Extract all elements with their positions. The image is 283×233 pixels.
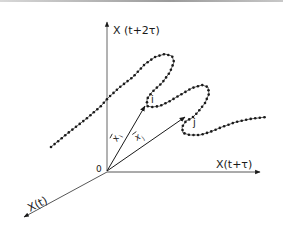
trajectory-point — [133, 74, 136, 77]
trajectory-point — [259, 117, 262, 120]
trajectory-point — [53, 143, 56, 146]
trajectory-point — [188, 118, 191, 121]
trajectory-point — [204, 102, 207, 105]
trajectory-point — [57, 140, 60, 143]
trajectory-points — [50, 53, 266, 148]
trajectory-point — [100, 105, 103, 108]
trajectory-point — [210, 130, 213, 133]
trajectory-point — [140, 67, 143, 70]
trajectory-point — [89, 114, 92, 117]
trajectory-point — [249, 118, 252, 121]
trajectory-point — [50, 146, 53, 149]
trajectory-point — [188, 133, 191, 136]
trajectory-path — [51, 54, 266, 147]
trajectory-point — [206, 132, 209, 135]
trajectory-point — [207, 89, 210, 92]
trajectory-point — [109, 95, 112, 98]
trajectory-point — [150, 58, 153, 61]
trajectory-point — [151, 106, 154, 109]
trajectory-point — [168, 72, 171, 75]
axes — [24, 22, 260, 217]
trajectory-point — [75, 126, 78, 129]
trajectory-point — [165, 76, 168, 79]
trajectory-point — [214, 128, 217, 131]
trajectory-point — [152, 89, 155, 92]
vector-xi-symbol: x — [109, 133, 121, 144]
trajectory-point — [126, 80, 129, 83]
trajectory — [50, 53, 266, 148]
trajectory-point — [82, 120, 85, 123]
trajectory-point — [227, 123, 230, 126]
trajectory-point — [201, 84, 204, 87]
trajectory-point — [205, 85, 208, 88]
trajectory-point — [172, 60, 175, 63]
trajectory-point — [183, 132, 186, 135]
trajectory-point — [112, 92, 115, 95]
trajectory-point — [167, 54, 170, 57]
trajectory-point — [181, 129, 184, 132]
trajectory-point — [119, 85, 122, 88]
phase-space-diagram: X (t+2τ) X(t+τ) X(t) 0 i j x i x j — [0, 0, 283, 233]
trajectory-point — [162, 80, 165, 83]
trajectory-point — [197, 134, 200, 137]
trajectory-point — [168, 100, 171, 103]
trajectory-point — [171, 64, 174, 67]
trajectory-point — [184, 91, 187, 94]
trajectory-point — [182, 124, 185, 127]
trajectory-point — [96, 108, 99, 111]
trajectory-point — [240, 120, 243, 123]
trajectory-point — [195, 112, 198, 115]
trajectory-point — [207, 93, 210, 96]
depth-axis-label: X(t) — [25, 194, 49, 215]
trajectory-point — [64, 134, 67, 137]
trajectory-point — [86, 117, 89, 120]
trajectory-point — [201, 133, 204, 136]
trajectory-point — [192, 86, 195, 89]
point-j-label: j — [192, 117, 196, 128]
origin-label: 0 — [96, 164, 102, 174]
trajectory-point — [60, 137, 63, 140]
trajectory-point — [106, 98, 109, 101]
trajectory-point — [192, 134, 195, 137]
trajectory-point — [170, 68, 173, 71]
trajectory-point — [254, 117, 257, 120]
trajectory-point — [158, 54, 161, 57]
horizontal-axis-label: X(t+τ) — [216, 158, 252, 171]
trajectory-point — [180, 93, 183, 96]
trajectory-point — [78, 123, 81, 126]
trajectory-point — [163, 53, 166, 56]
trajectory-point — [130, 77, 133, 80]
trajectory-point — [160, 104, 163, 107]
trajectory-point — [198, 109, 201, 112]
trajectory-point — [206, 98, 209, 101]
trajectory-point — [164, 102, 167, 105]
trajectory-point — [219, 127, 222, 130]
trajectory-point — [223, 125, 226, 128]
trajectory-point — [93, 111, 96, 114]
trajectory-point — [172, 98, 175, 101]
trajectory-point — [263, 116, 266, 119]
trajectory-point — [171, 56, 174, 59]
trajectory-point — [184, 121, 187, 124]
trajectory-point — [147, 97, 150, 100]
trajectory-point — [103, 101, 106, 104]
trajectory-point — [116, 89, 119, 92]
trajectory-point — [137, 71, 140, 74]
vertical-axis-label: X (t+2τ) — [113, 24, 160, 37]
trajectory-point — [232, 122, 235, 125]
trajectory-point — [188, 88, 191, 91]
trajectory-point — [147, 105, 150, 108]
vector-xi-label: x i — [109, 131, 124, 145]
trajectory-point — [245, 119, 248, 122]
trajectory-point — [201, 105, 204, 108]
trajectory-point — [123, 83, 126, 86]
trajectory-point — [68, 131, 71, 134]
trajectory-point — [146, 101, 149, 104]
trajectory-point — [156, 86, 159, 89]
trajectory-point — [197, 85, 200, 88]
trajectory-point — [159, 83, 162, 86]
trajectory-point — [146, 61, 149, 64]
point-i-label: i — [151, 94, 154, 105]
vector-xj-label: x j — [131, 130, 146, 146]
trajectory-point — [143, 64, 146, 67]
